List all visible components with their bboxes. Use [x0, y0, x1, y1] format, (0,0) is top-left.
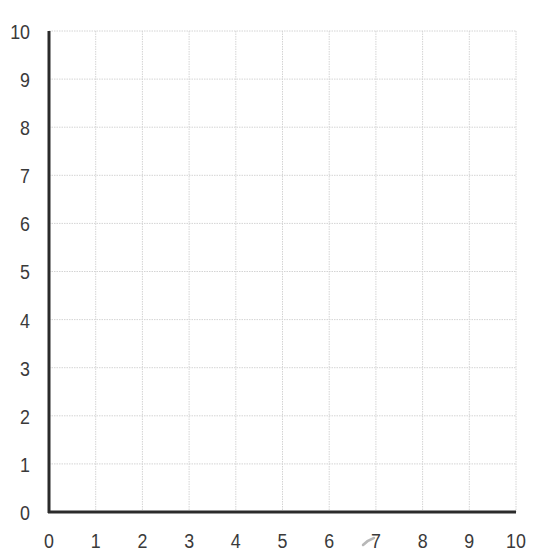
x-tick-label: 9	[464, 529, 474, 553]
x-tick-label: 8	[418, 529, 428, 553]
y-tick-label: 3	[20, 356, 30, 380]
y-tick-label: 7	[20, 164, 30, 188]
y-axis-tick-labels: 012345678910	[10, 20, 30, 525]
x-tick-label: 3	[184, 529, 194, 553]
coordinate-grid-chart: 012345678910 012345678910	[0, 0, 539, 559]
y-tick-label: 6	[20, 212, 30, 236]
y-tick-label: 4	[20, 308, 30, 332]
y-tick-label: 5	[20, 260, 30, 284]
y-tick-label: 9	[20, 68, 30, 92]
x-tick-label: 1	[91, 529, 101, 553]
y-tick-label: 10	[10, 20, 30, 44]
y-tick-label: 0	[20, 501, 30, 525]
x-tick-label: 2	[137, 529, 147, 553]
x-tick-label: 7	[371, 529, 381, 553]
x-axis-tick-labels: 012345678910	[44, 529, 526, 553]
y-tick-label: 8	[20, 116, 30, 140]
x-tick-label: 0	[44, 529, 54, 553]
x-tick-label: 4	[231, 529, 241, 553]
x-tick-label: 6	[324, 529, 334, 553]
grid-lines	[49, 31, 516, 512]
y-tick-label: 2	[20, 404, 30, 428]
x-tick-label: 10	[506, 529, 526, 553]
x-tick-label: 5	[278, 529, 288, 553]
y-tick-label: 1	[20, 453, 30, 477]
